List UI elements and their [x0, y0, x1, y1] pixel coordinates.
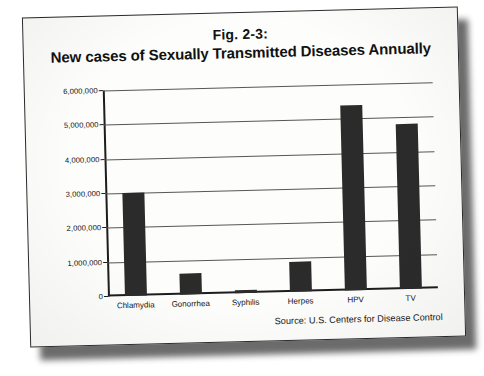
bar-tv	[395, 124, 421, 289]
bar-group: Syphilis	[213, 86, 273, 293]
y-axis-tick-label: 2,000,000	[66, 223, 101, 233]
bar-group: HPV	[323, 84, 383, 291]
bar-group: TV	[378, 82, 438, 289]
bar-gonorrhea	[179, 274, 202, 295]
x-axis-label-tv: TV	[405, 294, 415, 303]
bar-herpes	[289, 261, 312, 292]
y-axis-tick-label: 0	[99, 292, 104, 301]
y-axis-tick-label: 1,000,000	[67, 258, 102, 268]
bar-group: Gonorrhea	[158, 88, 218, 295]
x-axis-label-chlamydia: Chlamydia	[117, 300, 155, 310]
y-axis-tick-label: 3,000,000	[66, 189, 101, 199]
x-axis-label-herpes: Herpes	[288, 296, 314, 306]
bar-chlamydia	[122, 193, 147, 297]
x-axis-label-gonorrhea: Gonorrhea	[171, 299, 209, 309]
y-axis-tick-label: 6,000,000	[63, 86, 98, 96]
bar-group: Herpes	[268, 85, 328, 292]
bar-series: ChlamydiaGonorrheaSyphilisHerpesHPVTV	[103, 82, 438, 296]
x-axis-label-syphilis: Syphilis	[232, 298, 260, 308]
scanned-figure-page: Fig. 2-3: New cases of Sexually Transmit…	[0, 0, 484, 376]
bar-hpv	[340, 105, 367, 291]
y-axis-tick-label: 4,000,000	[65, 155, 100, 165]
y-axis-tick-label: 5,000,000	[64, 120, 99, 130]
x-axis-label-hpv: HPV	[347, 295, 364, 304]
bar-chart: 01,000,0002,000,0003,000,0004,000,0005,0…	[23, 8, 466, 348]
bar-syphilis	[234, 290, 256, 293]
figure-page: Fig. 2-3: New cases of Sexually Transmit…	[22, 7, 466, 348]
bar-group: Chlamydia	[103, 89, 163, 296]
plot-area: 01,000,0002,000,0003,000,0004,000,0005,0…	[103, 82, 438, 296]
